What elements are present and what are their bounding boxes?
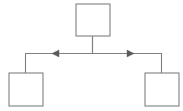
node-left-box[interactable] [9,73,43,106]
arrowhead-left-icon [52,50,59,57]
arrowhead-right-icon [127,50,134,57]
diagram-svg [0,0,183,111]
node-top-box[interactable] [76,4,110,36]
node-left[interactable] [9,73,43,106]
node-right-box[interactable] [145,73,179,106]
diagram-canvas [0,0,183,111]
node-top[interactable] [76,4,110,36]
node-right[interactable] [145,73,179,106]
